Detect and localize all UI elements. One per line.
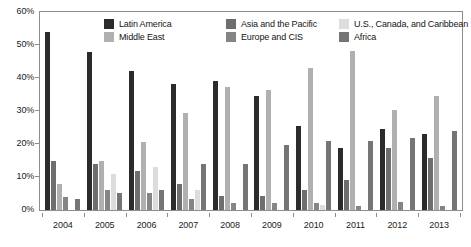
bar bbox=[93, 164, 98, 210]
bar bbox=[434, 96, 439, 210]
x-axis-tick-mark bbox=[460, 213, 461, 217]
bar bbox=[338, 148, 343, 210]
legend-item[interactable]: Asia and the Pacific bbox=[226, 17, 339, 30]
bar bbox=[392, 110, 397, 210]
bar bbox=[45, 32, 50, 210]
bar bbox=[153, 167, 158, 210]
x-axis-tick-mark bbox=[126, 213, 127, 217]
bar bbox=[398, 202, 403, 210]
bar-chart: 0%10%20%30%40%50%60% 2004200520062007200… bbox=[0, 0, 471, 247]
legend-swatch-icon bbox=[104, 32, 114, 42]
legend-label: U.S., Canada, and Caribbean bbox=[354, 19, 468, 29]
y-axis-tick-mark bbox=[35, 77, 39, 78]
x-axis-tick-mark bbox=[293, 213, 294, 217]
bar bbox=[428, 158, 433, 210]
bar bbox=[213, 81, 218, 210]
x-axis-tick-mark bbox=[418, 213, 419, 217]
bar bbox=[422, 134, 427, 210]
bar bbox=[266, 90, 271, 210]
bar bbox=[201, 164, 206, 210]
y-axis-tick-label: 10% bbox=[17, 172, 34, 181]
x-axis-tick-mark bbox=[376, 213, 377, 217]
x-axis-tick-label: 2009 bbox=[251, 213, 293, 239]
bar bbox=[117, 193, 122, 210]
bar bbox=[284, 145, 289, 210]
x-axis-tick-mark bbox=[167, 213, 168, 217]
x-axis-tick-label: 2005 bbox=[84, 213, 126, 239]
bar bbox=[195, 190, 200, 210]
legend-label: Middle East bbox=[119, 32, 164, 42]
bar bbox=[308, 68, 313, 210]
y-axis-tick-label: 0% bbox=[21, 205, 34, 214]
y-axis-tick-mark bbox=[35, 44, 39, 45]
bar bbox=[99, 161, 104, 210]
y-axis-tick-label: 40% bbox=[17, 73, 34, 82]
bar bbox=[452, 131, 457, 210]
legend-item[interactable]: Europe and CIS bbox=[226, 30, 339, 43]
bar bbox=[410, 138, 415, 210]
legend-item[interactable]: U.S., Canada, and Caribbean bbox=[339, 17, 468, 30]
bar bbox=[314, 203, 319, 210]
bar bbox=[272, 203, 277, 210]
x-axis: 2004200520062007200820092010201120122013 bbox=[40, 213, 462, 239]
bar bbox=[147, 193, 152, 210]
bar bbox=[225, 87, 230, 210]
y-axis-tick-mark bbox=[35, 176, 39, 177]
legend-item[interactable]: Latin America bbox=[104, 17, 226, 30]
bar bbox=[111, 174, 116, 210]
bar bbox=[63, 197, 68, 210]
legend-label: Europe and CIS bbox=[241, 32, 303, 42]
bar bbox=[51, 161, 56, 210]
x-axis-tick-label: 2008 bbox=[209, 213, 251, 239]
y-axis-tick-label: 60% bbox=[17, 7, 34, 16]
legend-swatch-icon bbox=[226, 32, 236, 42]
bar bbox=[302, 190, 307, 210]
bar bbox=[326, 141, 331, 210]
bar bbox=[440, 206, 445, 210]
legend-item[interactable]: Africa bbox=[339, 30, 468, 43]
bar-group bbox=[42, 12, 84, 210]
y-axis-tick-label: 30% bbox=[17, 106, 34, 115]
bar bbox=[320, 205, 325, 210]
legend-swatch-icon bbox=[339, 32, 349, 42]
y-axis-tick-label: 20% bbox=[17, 139, 34, 148]
bar bbox=[356, 206, 361, 210]
x-axis-tick-label: 2004 bbox=[42, 213, 84, 239]
bar bbox=[135, 171, 140, 210]
bar bbox=[219, 196, 224, 210]
legend-swatch-icon bbox=[226, 19, 236, 29]
x-axis-tick-mark bbox=[251, 213, 252, 217]
legend-swatch-icon bbox=[104, 19, 114, 29]
bar bbox=[344, 180, 349, 210]
legend-item[interactable]: Middle East bbox=[104, 30, 226, 43]
x-axis-tick-mark bbox=[335, 213, 336, 217]
bar bbox=[368, 141, 373, 210]
legend-label: Africa bbox=[354, 32, 376, 42]
chart-legend: Latin AmericaAsia and the PacificU.S., C… bbox=[104, 17, 449, 43]
bar bbox=[183, 113, 188, 210]
bar bbox=[189, 199, 194, 210]
x-axis-tick-mark bbox=[84, 213, 85, 217]
y-axis-tick-mark bbox=[35, 110, 39, 111]
bar bbox=[243, 164, 248, 210]
bar bbox=[254, 96, 259, 210]
x-axis-tick-label: 2013 bbox=[418, 213, 460, 239]
x-axis-tick-label: 2012 bbox=[376, 213, 418, 239]
legend-swatch-icon bbox=[339, 19, 349, 29]
y-axis-tick-mark bbox=[35, 143, 39, 144]
bar bbox=[75, 199, 80, 210]
legend-label: Latin America bbox=[119, 19, 172, 29]
y-axis-tick-label: 50% bbox=[17, 40, 34, 49]
x-axis-tick-label: 2010 bbox=[293, 213, 335, 239]
x-axis-tick-mark bbox=[209, 213, 210, 217]
bar bbox=[350, 51, 355, 210]
x-axis-tick-label: 2007 bbox=[167, 213, 209, 239]
bar bbox=[87, 52, 92, 210]
bar bbox=[177, 184, 182, 210]
bar bbox=[386, 148, 391, 210]
legend-label: Asia and the Pacific bbox=[241, 19, 317, 29]
x-axis-tick-label: 2011 bbox=[335, 213, 377, 239]
bar bbox=[57, 184, 62, 210]
bar bbox=[141, 142, 146, 210]
bar bbox=[171, 84, 176, 210]
